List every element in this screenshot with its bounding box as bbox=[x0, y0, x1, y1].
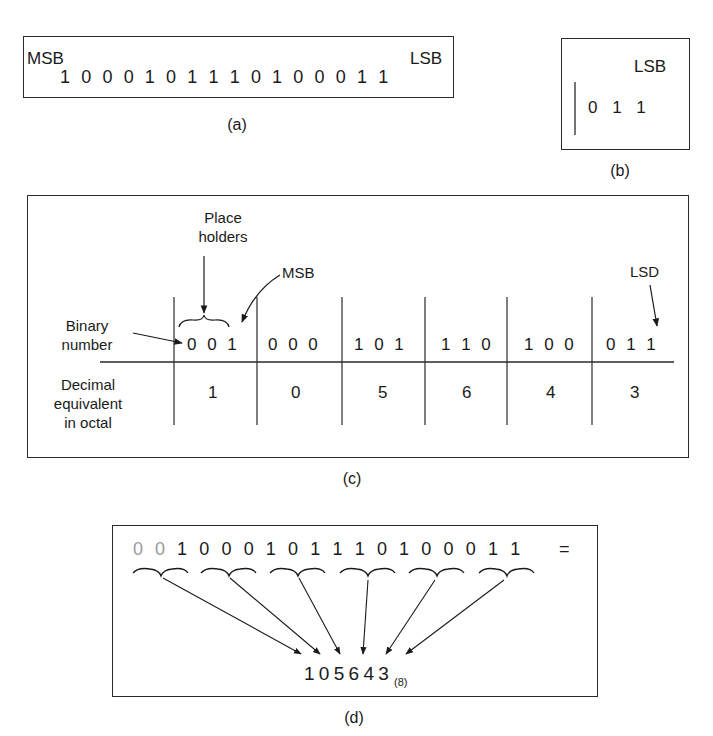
panel-d-graphics bbox=[0, 0, 713, 736]
conversion-arrows-icon bbox=[163, 578, 504, 654]
group-braces-icon bbox=[133, 569, 534, 577]
